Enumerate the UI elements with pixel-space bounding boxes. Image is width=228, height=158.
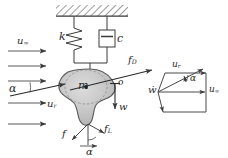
origin-label: o <box>118 78 123 87</box>
spring-element <box>66 16 82 63</box>
mass-label: m <box>78 80 88 91</box>
freestream-velocity-label: u∞ <box>17 36 29 47</box>
triangle-vertical-velocity-label: ẇ <box>148 85 157 95</box>
spring-stiffness-label: k <box>59 31 66 42</box>
fixed-support <box>56 5 128 16</box>
galloping-conductor-figure: u∞ k c m α ur fD o w f fL α ur α ẇ u∞ <box>0 0 228 158</box>
force-triangle-bottom <box>72 124 104 146</box>
drag-force-label: fD <box>128 55 137 66</box>
triangle-angle-label: α <box>190 74 196 83</box>
velocity-parallelogram <box>158 69 206 112</box>
triangle-freestream-velocity-label: u∞ <box>209 85 219 95</box>
damper-element <box>99 16 115 63</box>
triangle-relative-velocity-label: ur <box>172 60 180 70</box>
vertical-displacement-label: w <box>119 102 128 112</box>
iced-conductor-mass <box>59 69 115 125</box>
damping-coefficient-label: c <box>117 33 123 44</box>
force-angle-label: α <box>86 147 93 157</box>
relative-velocity-label: ur <box>47 99 56 110</box>
resultant-force-label: f <box>62 129 66 139</box>
lift-force-label: fL <box>104 124 112 135</box>
relative-velocity-arrow <box>10 82 65 96</box>
wind-attack-angle-label: α <box>9 83 16 94</box>
